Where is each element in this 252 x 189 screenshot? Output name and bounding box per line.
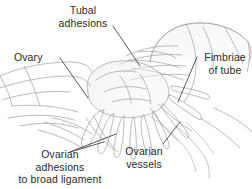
- lower-right-outline: [200, 108, 252, 148]
- label-ovary: Ovary: [14, 51, 62, 64]
- label-tubal-adhesions: Tubal adhesions: [47, 4, 119, 29]
- label-fimbriae-of-tube: Fimbriae of tube: [198, 51, 252, 76]
- label-tubal-adhesions-line2: adhesions: [47, 17, 119, 30]
- leader-line-tubal-adhesions: [113, 26, 140, 66]
- anatomical-illustration-figure: Tubal adhesions Ovary Fimbriae of tube O…: [0, 0, 252, 189]
- label-ovarian-adhesions-line3: to broad ligament: [4, 173, 116, 186]
- label-ovarian-vessels: Ovarian vessels: [113, 145, 175, 170]
- broad-ligament-sheets: [0, 62, 92, 128]
- label-fimbriae-line2: of tube: [198, 64, 252, 77]
- label-ovarian-vessels-line2: vessels: [113, 158, 175, 171]
- label-ovarian-adhesions-to-broad-ligament: Ovarian adhesions to broad ligament: [4, 148, 116, 186]
- label-ovarian-vessels-line1: Ovarian: [113, 145, 175, 158]
- ovary-body: [87, 61, 169, 118]
- label-tubal-adhesions-line1: Tubal: [47, 4, 119, 17]
- label-fimbriae-line1: Fimbriae: [198, 51, 252, 64]
- label-ovarian-adhesions-line1: Ovarian: [4, 148, 116, 161]
- label-ovary-line1: Ovary: [14, 51, 62, 64]
- label-ovarian-adhesions-line2: adhesions: [4, 161, 116, 174]
